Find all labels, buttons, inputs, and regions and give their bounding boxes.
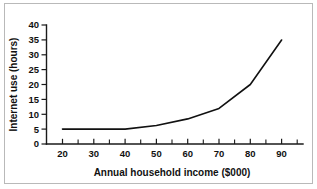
- y-tick-label: 0: [34, 138, 39, 149]
- y-tick-label: 25: [28, 64, 39, 75]
- x-tick-label: 70: [214, 148, 225, 159]
- y-tick-label: 35: [28, 34, 39, 45]
- x-tick-label: 50: [151, 148, 162, 159]
- y-tick-label: 10: [28, 109, 39, 120]
- x-tick-label: 90: [276, 148, 287, 159]
- x-tick-label: 20: [57, 148, 68, 159]
- y-axis-ticks: [42, 25, 47, 144]
- y-axis-tick-labels: 0 5 10 15 20 25 30 35 40: [28, 19, 39, 149]
- line-chart: 0 5 10 15 20 25 30 35 40: [0, 0, 317, 189]
- chart-figure: 0 5 10 15 20 25 30 35 40: [0, 0, 317, 189]
- x-axis-title: Annual household income ($000): [94, 167, 251, 178]
- y-axis-title: Internet use (hours): [8, 38, 19, 132]
- x-tick-label: 30: [89, 148, 100, 159]
- y-tick-label: 20: [28, 79, 39, 90]
- data-series-internet-use: [63, 40, 282, 129]
- y-tick-label: 30: [28, 49, 39, 60]
- x-tick-label: 60: [182, 148, 193, 159]
- y-tick-label: 5: [34, 124, 40, 135]
- x-axis-tick-labels: 20 30 40 50 60 70 80 90: [57, 148, 287, 159]
- x-tick-label: 40: [120, 148, 131, 159]
- y-tick-label: 15: [28, 94, 39, 105]
- x-tick-label: 80: [245, 148, 256, 159]
- y-tick-label: 40: [28, 19, 39, 30]
